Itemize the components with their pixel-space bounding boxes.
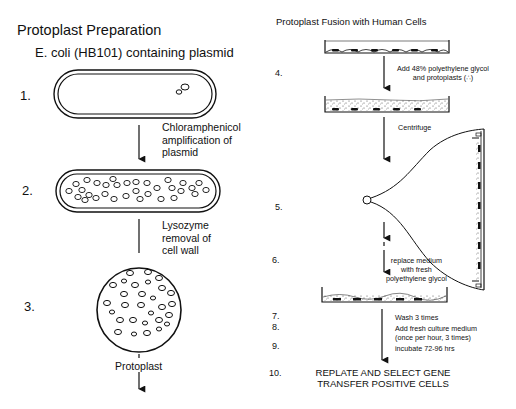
protoplast-label: Protoplast [115,360,162,372]
step-number-5: 5. [275,202,283,212]
protoplast-step-3 [97,268,181,352]
note-amplification: Chloramphenicol amplification of plasmid [162,121,241,159]
step-number-6: 6. [272,255,280,265]
note-step-7: Wash 3 times [395,313,438,322]
step-number-10: 10. [269,368,282,378]
step-number-9: 9. [272,341,280,351]
plasmid-icon [181,84,189,90]
step-number-1: 1. [20,88,31,103]
step-number-7: 7. [272,311,280,321]
note-step-6: replace medium with fresh polyethylene g… [386,256,447,283]
step-number-8: 8. [272,322,280,332]
note-step-5: Centrifuge [398,123,431,132]
left-panel-title: Protoplast Preparation [17,22,161,38]
culture-dish-step-4 [325,40,449,53]
final-instruction: REPLATE AND SELECT GENE TRANSFER POSITIV… [313,367,453,389]
right-panel-title: Protoplast Fusion with Human Cells [276,16,426,27]
step-number-4: 4. [275,68,283,78]
bacterium-step-2 [56,170,220,212]
left-panel-subtitle: E. coli (HB101) containing plasmid [35,45,234,60]
step-number-3: 3. [24,299,35,314]
culture-dish-peg [325,96,449,112]
note-step-8: Add fresh culture medium (once per hour,… [395,324,477,342]
culture-dish-step-6 [322,287,447,302]
note-step-4: Add 48% polyethylene glycol and protopla… [397,64,489,82]
step-number-2: 2. [22,183,33,198]
note-lysozyme: Lysozyme removal of cell wall [162,219,211,257]
note-step-9: incubate 72-96 hrs [395,344,455,353]
bacterium-step-1 [54,70,216,118]
